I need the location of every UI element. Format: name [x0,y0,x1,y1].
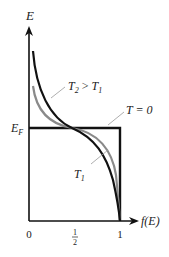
t2-label: T2 > T1 [68,79,102,95]
x-axis-label: f(E) [141,214,160,228]
curve-t1 [33,51,120,221]
x-tick-half-num: 1 [73,228,77,237]
x-tick-half-den: 2 [73,238,77,247]
y-axis-label: E [25,8,34,23]
t2-leader-line [51,87,65,98]
t0-leader-line [108,112,124,125]
fermi-level-label: EF [10,121,23,137]
t0-label: T = 0 [126,103,153,117]
fermi-dirac-diagram: E EF T2 > T1 T = 0 T1 f(E) 0 1 2 1 [0,0,169,257]
curve-t2 [33,86,120,221]
x-tick-1: 1 [117,228,123,240]
diagram-canvas: E EF T2 > T1 T = 0 T1 f(E) 0 1 2 1 [0,0,169,257]
t1-label: T1 [74,167,85,183]
x-tick-0: 0 [26,228,32,240]
